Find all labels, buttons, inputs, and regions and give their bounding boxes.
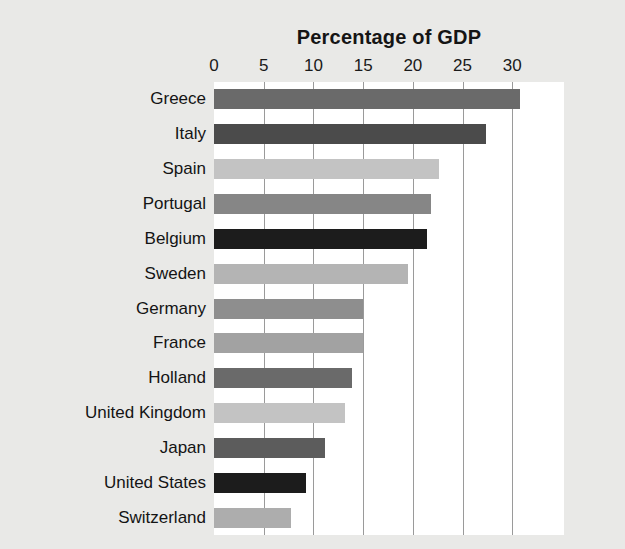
bar — [214, 299, 363, 319]
bar — [214, 194, 431, 214]
category-label: Japan — [0, 438, 206, 458]
bar — [214, 473, 306, 493]
x-tick-label: 10 — [304, 56, 323, 76]
category-label: Switzerland — [0, 508, 206, 528]
category-label: Greece — [0, 89, 206, 109]
bar — [214, 229, 427, 249]
category-label: Portugal — [0, 194, 206, 214]
bar — [214, 403, 345, 423]
bar — [214, 89, 520, 109]
bar — [214, 264, 408, 284]
y-axis-category-labels: GreeceItalySpainPortugalBelgiumSwedenGer… — [0, 82, 206, 535]
x-tick-label: 5 — [259, 56, 268, 76]
x-tick-label: 25 — [453, 56, 472, 76]
gridline — [512, 82, 513, 535]
category-label: Germany — [0, 299, 206, 319]
category-label: France — [0, 333, 206, 353]
category-label: Sweden — [0, 264, 206, 284]
x-tick-label: 30 — [503, 56, 522, 76]
bar — [214, 368, 352, 388]
category-label: Holland — [0, 368, 206, 388]
category-label: United Kingdom — [0, 403, 206, 423]
category-label: Belgium — [0, 229, 206, 249]
x-tick-label: 20 — [403, 56, 422, 76]
bar — [214, 333, 363, 353]
bar — [214, 438, 325, 458]
gridline — [463, 82, 464, 535]
bar — [214, 159, 439, 179]
bar-chart: Percentage of GDP 051015202530 GreeceIta… — [0, 0, 625, 549]
x-tick-label: 15 — [354, 56, 373, 76]
gridline — [413, 82, 414, 535]
bar — [214, 124, 486, 144]
gridline — [363, 82, 364, 535]
category-label: Italy — [0, 124, 206, 144]
x-axis-tick-labels: 051015202530 — [0, 56, 625, 78]
bar — [214, 508, 291, 528]
x-tick-label: 0 — [209, 56, 218, 76]
chart-title: Percentage of GDP — [214, 26, 564, 49]
category-label: Spain — [0, 159, 206, 179]
category-label: United States — [0, 473, 206, 493]
plot-area — [214, 82, 564, 535]
